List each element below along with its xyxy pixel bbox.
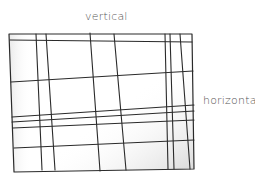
hand-drawn-grid: [0, 0, 255, 175]
